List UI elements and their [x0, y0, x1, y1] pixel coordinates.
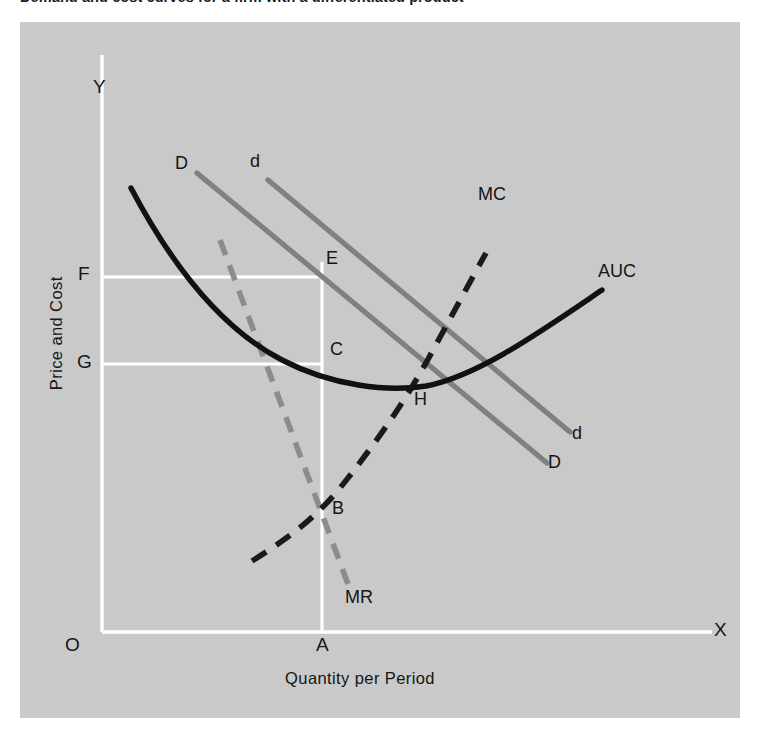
x-axis-letter: X	[714, 620, 727, 639]
curve-label-MC: MC	[478, 185, 506, 203]
y-axis-letter: Y	[93, 77, 106, 96]
curve-label-dd-right: d	[572, 424, 582, 442]
point-label-B: B	[332, 499, 344, 517]
x-axis-title: Quantity per Period	[210, 670, 510, 687]
y-axis-title: Price and Cost	[48, 258, 65, 408]
figure-title: Demand and cost curves for a firm with a…	[20, 0, 740, 5]
curve-label-DD-left: D	[175, 154, 188, 172]
curve-label-DD-right: D	[548, 453, 561, 471]
origin-letter: O	[65, 635, 80, 654]
chart-canvas	[20, 22, 740, 718]
tick-label-A: A	[316, 635, 329, 654]
marginal-cost-curve	[252, 253, 486, 561]
tick-label-G: G	[77, 352, 92, 371]
point-label-H: H	[414, 390, 427, 408]
plot-panel: Y X O F G A D d D d MR MC AUC E C H B Pr…	[20, 22, 740, 718]
tick-label-F: F	[78, 264, 90, 283]
point-label-E: E	[326, 249, 338, 267]
point-label-C: C	[330, 340, 343, 358]
curve-label-dd-left: d	[250, 152, 260, 170]
marginal-revenue-curve	[220, 240, 348, 584]
average-unit-cost-curve	[131, 188, 602, 388]
curve-label-MR: MR	[345, 588, 373, 606]
curve-label-AUC: AUC	[598, 262, 636, 280]
